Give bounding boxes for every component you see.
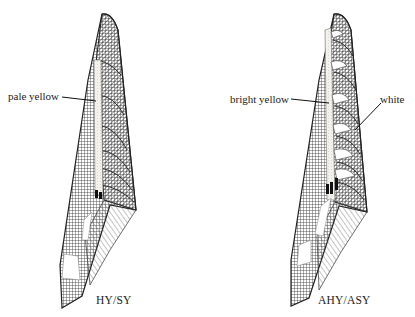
- callout-bright-yellow: bright yellow: [230, 93, 289, 105]
- callout-white: white: [380, 93, 404, 105]
- caption-ahy-asy: AHY/ASY: [318, 294, 371, 306]
- panel-ahy-asy: bright yellow white AHY/ASY: [207, 0, 415, 317]
- wing-illustration-ahy-asy: [207, 0, 415, 317]
- callout-pale-yellow: pale yellow: [8, 90, 59, 102]
- panel-hy-sy: pale yellow HY/SY: [0, 0, 207, 317]
- caption-hy-sy: HY/SY: [96, 294, 132, 306]
- wing-illustration-hy-sy: [0, 0, 207, 317]
